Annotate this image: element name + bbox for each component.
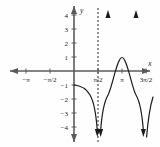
x-tick-label-neg-pi: −π (22, 76, 30, 84)
x-tick-label-pi: π (120, 76, 124, 84)
arrow-u-left-down (98, 129, 103, 137)
y-axis (71, 6, 77, 142)
x-axis-label: x (147, 59, 152, 68)
y-tick-label-neg-4: −4 (61, 124, 69, 132)
curve-branches (74, 58, 153, 138)
arrow-u-right-up (134, 10, 139, 18)
y-tick-label-3: 3 (65, 26, 69, 34)
function-graph-figure: −π −π/2 π/2 π 3π/2 4 3 2 1 −1 −2 −3 −4 y… (0, 0, 160, 147)
y-tick-label-1: 1 (65, 54, 69, 62)
x-tick-label-3pi-over-2: 3π/2 (140, 76, 153, 84)
y-tick-label-neg-1: −1 (61, 82, 69, 90)
arrow-u-left-up (106, 10, 111, 18)
y-tick-label-2: 2 (65, 40, 69, 48)
x-tick-labels: −π −π/2 π/2 π 3π/2 (22, 76, 152, 84)
left-descending-branch (74, 85, 97, 131)
y-axis-label: y (79, 6, 84, 15)
graph-canvas: −π −π/2 π/2 π 3π/2 4 3 2 1 −1 −2 −3 −4 y… (0, 0, 160, 147)
y-tick-label-neg-2: −2 (61, 96, 69, 104)
arrow-u-right-down (141, 129, 146, 137)
x-tick-label-pi-over-2: π/2 (94, 76, 103, 84)
right-rising-branch (147, 97, 153, 137)
x-tick-label-neg-pi-over-2: −π/2 (44, 76, 57, 84)
y-tick-label-neg-3: −3 (61, 110, 69, 118)
y-tick-label-4: 4 (65, 12, 69, 20)
